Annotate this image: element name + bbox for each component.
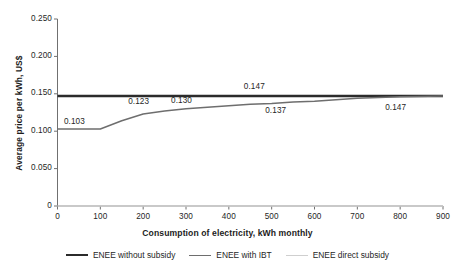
- x-tick-label: 0: [38, 212, 78, 221]
- y-tick-label: 0: [10, 201, 52, 210]
- data-point-label: 0.103: [64, 117, 85, 126]
- data-point-label: 0.147: [385, 103, 406, 112]
- y-axis-title: Average price per kWh, US$: [14, 28, 24, 198]
- data-point-label: 0.130: [171, 96, 192, 105]
- x-axis-title: Consumption of electricity, kWh monthly: [0, 228, 455, 238]
- x-tick-label: 400: [209, 212, 249, 221]
- legend-item[interactable]: ENEE without subsidy: [66, 250, 175, 260]
- legend-item[interactable]: ENEE direct subsidy: [286, 250, 389, 260]
- x-tick-label: 500: [252, 212, 292, 221]
- chart-container: 0.2500.2000.1500.1000.0500 0100200300400…: [0, 0, 455, 275]
- chart-series: [58, 96, 444, 206]
- legend-label: ENEE direct subsidy: [313, 250, 389, 260]
- chart-axes: [54, 19, 443, 210]
- legend-label: ENEE without subsidy: [93, 250, 175, 260]
- data-point-label: 0.137: [265, 106, 286, 115]
- x-tick-label: 600: [295, 212, 335, 221]
- x-tick-label: 200: [123, 212, 163, 221]
- y-tick-label: 0.250: [10, 14, 52, 23]
- legend-line-icon: [66, 254, 88, 256]
- legend-item[interactable]: ENEE with IBT: [189, 250, 271, 260]
- data-point-label: 0.147: [244, 82, 265, 91]
- x-tick-label: 700: [337, 212, 377, 221]
- chart-legend: ENEE without subsidyENEE with IBTENEE di…: [0, 250, 455, 260]
- legend-line-icon: [189, 255, 211, 256]
- x-tick-label: 900: [423, 212, 455, 221]
- x-tick-label: 300: [166, 212, 206, 221]
- legend-line-icon: [286, 255, 308, 256]
- legend-label: ENEE with IBT: [216, 250, 271, 260]
- data-point-label: 0.123: [128, 97, 149, 106]
- x-tick-label: 800: [380, 212, 420, 221]
- x-tick-label: 100: [80, 212, 120, 221]
